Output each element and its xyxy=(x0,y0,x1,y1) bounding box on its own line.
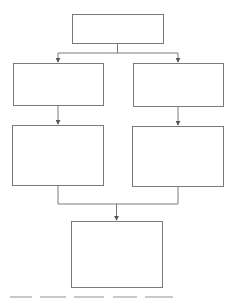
caption-clipped-glyphs xyxy=(10,296,32,298)
node-right-1 xyxy=(134,64,224,107)
node-left-1 xyxy=(14,64,104,106)
figure-caption xyxy=(10,296,222,301)
node-bottom xyxy=(72,222,163,288)
node-left-2 xyxy=(13,126,104,186)
caption-clipped-glyphs xyxy=(40,296,66,298)
flowchart-diagram xyxy=(0,0,232,301)
caption-clipped-glyphs xyxy=(145,296,173,298)
node-right-2 xyxy=(133,127,224,187)
caption-clipped-glyphs xyxy=(113,296,137,298)
node-top xyxy=(73,15,164,44)
nodes xyxy=(13,15,224,288)
caption-clipped-glyphs xyxy=(74,296,104,298)
